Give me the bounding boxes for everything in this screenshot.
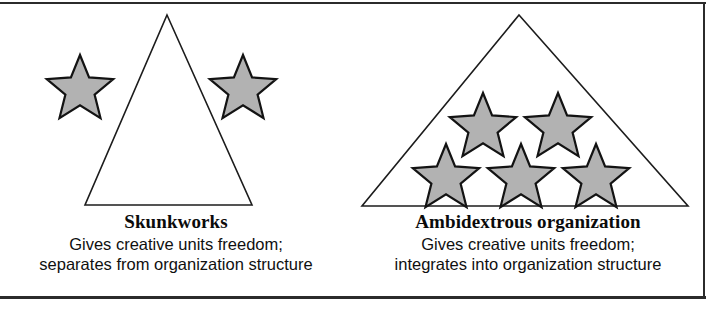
figure-root: Skunkworks Gives creative units freedom;… — [0, 0, 728, 310]
ambidextrous-description-line-1: Gives creative units freedom; — [352, 234, 704, 254]
skunkworks-description-line-2: separates from organization structure — [0, 254, 352, 274]
skunkworks-diagram — [0, 4, 352, 210]
panel-ambidextrous: Ambidextrous organization Gives creative… — [352, 4, 704, 294]
figure-border-bottom — [0, 296, 706, 299]
skunkworks-title: Skunkworks — [0, 210, 352, 233]
ambidextrous-description-line-2: integrates into organization structure — [352, 254, 704, 274]
skunkworks-star-outside-right — [210, 55, 276, 118]
ambidextrous-diagram — [352, 4, 704, 210]
skunkworks-caption: Skunkworks Gives creative units freedom;… — [0, 210, 352, 274]
skunkworks-star-outside-left — [47, 55, 113, 118]
skunkworks-description-line-1: Gives creative units freedom; — [0, 234, 352, 254]
ambidextrous-svg — [352, 4, 704, 210]
ambidextrous-title: Ambidextrous organization — [352, 210, 704, 233]
ambidextrous-caption: Ambidextrous organization Gives creative… — [352, 210, 704, 274]
panel-skunkworks: Skunkworks Gives creative units freedom;… — [0, 4, 352, 294]
skunkworks-svg — [0, 4, 352, 210]
